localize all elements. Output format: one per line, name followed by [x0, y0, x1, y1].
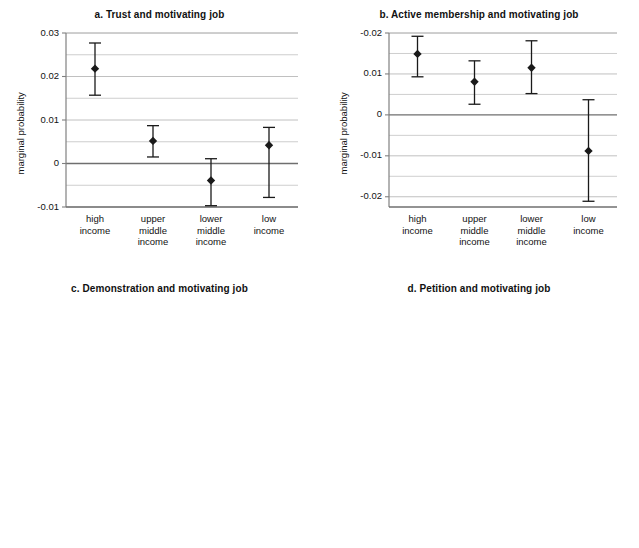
panel-a-plot: 0.030.020.010-0.01	[66, 33, 298, 207]
y-axis-tick-label: 0.01	[364, 67, 383, 78]
data-point-marker	[413, 50, 421, 58]
data-point-marker	[149, 137, 157, 145]
data-point-group	[469, 61, 481, 104]
data-point-group	[526, 41, 538, 94]
data-point-group	[147, 126, 159, 157]
panel-b-y-axis-label: marginal probability	[338, 65, 349, 175]
data-point-group	[205, 159, 217, 206]
y-axis-tick-label: -0.02	[360, 27, 382, 38]
y-axis-tick-label: 0.02	[41, 70, 60, 81]
y-axis-tick-label: -0.01	[360, 149, 382, 160]
panel-b-title: b. Active membership and motivating job	[319, 9, 639, 20]
data-point-group	[263, 127, 275, 197]
y-axis-tick-label: 0	[54, 157, 59, 168]
data-point-group	[412, 36, 424, 77]
data-point-group	[89, 43, 101, 95]
panel-b-plot: -0.020.010-0.01-0.02	[389, 33, 617, 207]
figure-panel-grid: a. Trust and motivating job marginal pro…	[0, 0, 639, 548]
data-point-marker	[207, 176, 215, 184]
x-axis-category-label: low income	[229, 213, 309, 236]
panel-a-y-axis-label: marginal probability	[15, 65, 26, 175]
y-axis-tick-label: 0.03	[41, 27, 60, 38]
panel-d: d. Petition and motivating job marginal …	[319, 274, 639, 548]
y-axis-tick-label: -0.02	[360, 190, 382, 201]
panel-c: c. Demonstration and motivating job marg…	[0, 274, 319, 548]
y-axis-tick-label: 0	[377, 108, 382, 119]
panel-a: a. Trust and motivating job marginal pro…	[0, 0, 319, 274]
panel-a-title: a. Trust and motivating job	[0, 9, 319, 20]
data-point-marker	[470, 78, 478, 86]
data-point-marker	[527, 64, 535, 72]
panel-c-title: c. Demonstration and motivating job	[0, 283, 319, 294]
y-axis-tick-label: 0.01	[41, 114, 60, 125]
data-point-marker	[584, 147, 592, 155]
panel-d-title: d. Petition and motivating job	[319, 283, 639, 294]
panel-b: b. Active membership and motivating job …	[319, 0, 639, 274]
data-point-marker	[265, 141, 273, 149]
data-point-marker	[91, 64, 99, 72]
x-axis-category-label: low income	[549, 213, 629, 236]
y-axis-tick-label: -0.01	[37, 201, 59, 212]
panel-a-svg: 0.030.020.010-0.01	[26, 31, 300, 209]
panel-b-svg: -0.020.010-0.01-0.02	[349, 31, 619, 209]
